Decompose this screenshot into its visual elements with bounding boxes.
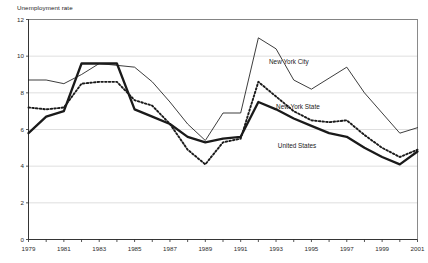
x-tick-label-1999: 1999 <box>375 245 389 252</box>
chart-canvas: 024681012 197919811983198519871989199119… <box>0 0 428 263</box>
x-tick-label-1997: 1997 <box>340 245 354 252</box>
x-tick-label-1987: 1987 <box>163 245 177 252</box>
x-tick-label-1989: 1989 <box>198 245 212 252</box>
series-annotations: New York CityNew York StateUnited States <box>269 58 320 149</box>
y-tick-label-6: 6 <box>21 126 25 133</box>
x-tick-label-1995: 1995 <box>305 245 319 252</box>
x-tick-label-1985: 1985 <box>128 245 142 252</box>
unemployment-rate-chart: Unemployment rate 024681012 197919811983… <box>0 0 428 263</box>
y-tick-label-0: 0 <box>21 236 25 243</box>
x-tick-label-1991: 1991 <box>234 245 248 252</box>
y-tick-label-10: 10 <box>17 52 24 59</box>
series-line-united-states <box>29 64 418 165</box>
series-annotation-united-states: United States <box>278 142 316 149</box>
y-tick-label-4: 4 <box>21 162 25 169</box>
x-tick-label-1993: 1993 <box>269 245 283 252</box>
x-tick-label-1979: 1979 <box>22 245 36 252</box>
gridlines-group <box>29 20 418 203</box>
y-tick-label-8: 8 <box>21 89 25 96</box>
x-axis: 1979198119831985198719891991199319951997… <box>22 240 425 252</box>
y-tick-label-2: 2 <box>21 199 25 206</box>
series-annotation-new-york-city: New York City <box>269 58 310 66</box>
x-tick-label-1981: 1981 <box>57 245 71 252</box>
x-tick-label-1983: 1983 <box>92 245 106 252</box>
series-line-new-york-city <box>29 38 418 141</box>
series-line-new-york-state <box>29 82 418 165</box>
y-axis: 024681012 <box>17 16 28 243</box>
x-tick-label-2001: 2001 <box>411 245 425 252</box>
y-tick-label-12: 12 <box>17 16 24 23</box>
series-annotation-new-york-state: New York State <box>276 103 320 110</box>
series-lines <box>29 38 418 165</box>
